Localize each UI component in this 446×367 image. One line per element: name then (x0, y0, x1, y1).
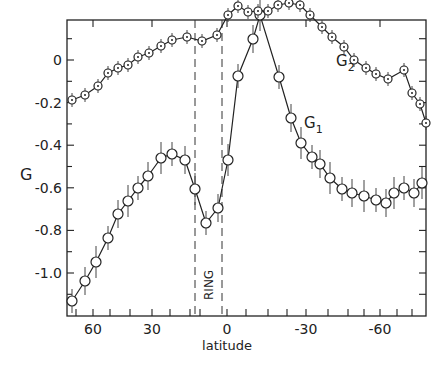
data-point (307, 152, 317, 162)
data-point (371, 195, 381, 205)
data-point (103, 233, 113, 243)
x-tick-label: 30 (143, 321, 161, 337)
data-point (315, 159, 325, 169)
data-point (337, 184, 347, 194)
data-point (113, 209, 123, 219)
ring-label: RING (202, 270, 216, 300)
y-tick-label: -1.0 (35, 265, 62, 281)
data-point (347, 188, 357, 198)
x-tick-labels: 60300-30-60 (84, 321, 391, 337)
y-axis-title: G (20, 165, 32, 184)
x-tick-label: -30 (295, 321, 318, 337)
data-point (180, 155, 190, 165)
y-tick-label: 0 (53, 52, 62, 68)
data-point (359, 191, 369, 201)
data-point (296, 138, 306, 148)
data-point (156, 153, 166, 163)
data-point (248, 34, 258, 44)
x-tick-label: 0 (223, 321, 232, 337)
x-tick-label: 60 (84, 321, 102, 337)
y-tick-labels: 0-0.2-0.4-0.6-0.8-1.0 (35, 52, 62, 281)
series-label-g2: G2 (336, 52, 355, 74)
data-point (399, 183, 409, 193)
x-tick-label: -60 (369, 321, 392, 337)
data-point (133, 183, 143, 193)
data-point (123, 196, 133, 206)
data-point (213, 203, 223, 213)
data-point (286, 113, 296, 123)
data-point (201, 218, 211, 228)
x-axis-title: latitude (202, 338, 252, 353)
y-axis-ticks (67, 39, 74, 295)
data-point (274, 72, 284, 82)
data-point (167, 149, 177, 159)
data-point (190, 184, 200, 194)
y-tick-label: -0.4 (35, 137, 62, 153)
data-point (223, 155, 233, 165)
y-tick-label: -0.8 (35, 222, 62, 238)
data-point (80, 276, 90, 286)
y-axis-ticks-right (419, 39, 426, 295)
y-tick-label: -0.2 (35, 95, 62, 111)
data-point (417, 178, 427, 188)
line-chart: 0-0.2-0.4-0.6-0.8-1.0 60300-30-60 G lati… (0, 0, 446, 367)
data-point (67, 296, 77, 306)
data-point (143, 171, 153, 181)
data-point (389, 188, 399, 198)
data-point (325, 173, 335, 183)
series-g1 (67, 0, 427, 313)
data-point (381, 198, 391, 208)
series-label-g1: G1 (304, 114, 323, 136)
data-point (409, 188, 419, 198)
data-point (91, 257, 101, 267)
y-tick-label: -0.6 (35, 180, 62, 196)
data-point (233, 71, 243, 81)
